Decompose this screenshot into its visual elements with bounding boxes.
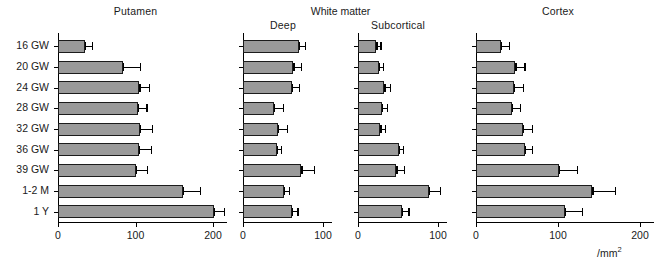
bar-cortex-3 bbox=[476, 102, 512, 115]
x-tick-cortex-0 bbox=[476, 223, 477, 227]
error-cap-outer-cortex-6 bbox=[577, 166, 578, 174]
error-line-cortex-3 bbox=[512, 108, 520, 109]
x-axis-cortex bbox=[476, 222, 654, 223]
error-cap-inner-cortex-0 bbox=[501, 42, 502, 50]
group-title-white-matter: White matter bbox=[243, 5, 438, 17]
error-cap-outer-cortex-7 bbox=[615, 187, 616, 195]
bar-cortex-7 bbox=[476, 185, 592, 198]
unit-label: /mm2 bbox=[597, 245, 622, 259]
error-cap-inner-cortex-8 bbox=[565, 208, 566, 216]
x-tick-label-cortex-0: 0 bbox=[451, 229, 501, 241]
error-line-cortex-6 bbox=[559, 170, 577, 171]
panel-cortex: Cortex0100200 bbox=[0, 0, 663, 277]
bar-cortex-0 bbox=[476, 40, 501, 53]
bar-cortex-5 bbox=[476, 143, 525, 156]
error-cap-inner-cortex-4 bbox=[523, 125, 524, 133]
x-tick-cortex-200 bbox=[640, 223, 641, 227]
error-cap-outer-cortex-5 bbox=[532, 146, 533, 154]
error-line-cortex-8 bbox=[565, 211, 582, 212]
bar-cortex-1 bbox=[476, 61, 515, 74]
error-line-cortex-0 bbox=[501, 46, 509, 47]
bar-cortex-6 bbox=[476, 164, 559, 177]
x-tick-cortex-100 bbox=[558, 223, 559, 227]
panel-title-cortex: Cortex bbox=[436, 5, 663, 17]
error-line-cortex-2 bbox=[514, 87, 523, 88]
bar-cortex-4 bbox=[476, 123, 523, 136]
unit-label-text: /mm bbox=[597, 247, 617, 259]
error-cap-outer-cortex-0 bbox=[509, 42, 510, 50]
error-cap-outer-cortex-4 bbox=[532, 125, 533, 133]
error-cap-inner-cortex-5 bbox=[525, 146, 526, 154]
bar-cortex-2 bbox=[476, 81, 514, 94]
error-cap-outer-cortex-2 bbox=[523, 84, 524, 92]
bar-chart-figure: Putamen010020016 GW20 GW24 GW28 GW32 GW3… bbox=[0, 0, 663, 277]
error-line-cortex-1 bbox=[515, 67, 524, 68]
error-cap-inner-cortex-2 bbox=[514, 84, 515, 92]
x-tick-label-cortex-100: 100 bbox=[533, 229, 583, 241]
error-line-cortex-7 bbox=[592, 191, 614, 192]
error-cap-inner-cortex-6 bbox=[559, 166, 560, 174]
error-cap-outer-cortex-1 bbox=[524, 63, 525, 71]
bar-cortex-8 bbox=[476, 205, 565, 218]
error-line-cortex-4 bbox=[523, 129, 532, 130]
error-cap-outer-cortex-8 bbox=[582, 208, 583, 216]
error-cap-inner-cortex-3 bbox=[512, 104, 513, 112]
unit-label-exponent: 2 bbox=[617, 245, 621, 254]
error-cap-inner-cortex-7 bbox=[592, 187, 593, 195]
error-cap-outer-cortex-3 bbox=[520, 104, 521, 112]
x-tick-label-cortex-200: 200 bbox=[615, 229, 663, 241]
error-cap-inner-cortex-1 bbox=[515, 63, 516, 71]
